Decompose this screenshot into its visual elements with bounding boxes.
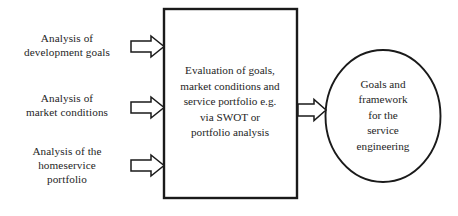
input-label-line: Analysis of the bbox=[8, 144, 126, 158]
input-label-line: homeservice bbox=[8, 158, 126, 172]
outcome-text-line: for the bbox=[336, 108, 430, 123]
input-label-line: portfolio bbox=[8, 172, 126, 186]
input-label-line: Analysis of bbox=[8, 91, 126, 105]
outcome-ellipse-text: Goals and framework for the service engi… bbox=[336, 77, 430, 154]
process-text-line: service portfolio e.g. bbox=[164, 94, 296, 110]
outcome-text-line: engineering bbox=[336, 139, 430, 154]
process-text-line: via SWOT or bbox=[164, 110, 296, 126]
input-arrow-homeservice-portfolio-icon bbox=[131, 155, 164, 176]
input-label-analysis-of-homeservice-portfolio: Analysis of the homeservice portfolio bbox=[8, 144, 126, 187]
process-text-line: market conditions and bbox=[164, 79, 296, 95]
input-label-line: market conditions bbox=[8, 105, 126, 119]
output-arrow-to-outcome-icon bbox=[298, 100, 326, 121]
diagram-canvas: Analysis of development goals Analysis o… bbox=[0, 0, 458, 216]
outcome-text-line: framework bbox=[336, 92, 430, 107]
input-arrow-market-conditions-icon bbox=[131, 97, 164, 118]
input-label-line: development goals bbox=[8, 45, 126, 59]
outcome-text-line: Goals and bbox=[336, 77, 430, 92]
process-rectangle-text: Evaluation of goals, market conditions a… bbox=[164, 63, 296, 141]
process-text-line: portfolio analysis bbox=[164, 125, 296, 141]
outcome-text-line: service bbox=[336, 123, 430, 138]
input-arrow-development-goals-icon bbox=[131, 36, 164, 57]
process-text-line: Evaluation of goals, bbox=[164, 63, 296, 79]
input-label-analysis-of-development-goals: Analysis of development goals bbox=[8, 31, 126, 59]
input-label-analysis-of-market-conditions: Analysis of market conditions bbox=[8, 91, 126, 119]
input-label-line: Analysis of bbox=[8, 31, 126, 45]
